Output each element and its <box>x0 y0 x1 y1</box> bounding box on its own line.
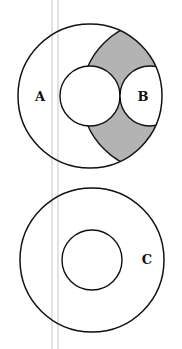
label-a: A <box>34 89 46 104</box>
top-figure: A B <box>18 21 182 171</box>
label-c: C <box>142 252 152 267</box>
set-c-inner-circle <box>62 230 122 290</box>
inner-circle <box>60 66 120 126</box>
set-b-circle <box>120 66 180 126</box>
bottom-figure: C <box>20 188 164 332</box>
venn-diagram: A B C <box>0 0 182 349</box>
label-b: B <box>138 89 149 104</box>
